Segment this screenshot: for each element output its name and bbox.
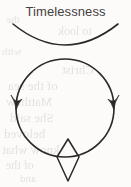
timelessness-diagram-page: theto lookwithChristof the seaMatthewShe… <box>0 0 131 187</box>
diamond-shape <box>57 139 79 181</box>
timelessness-symbol-drawing <box>0 0 131 187</box>
circle-shape <box>16 59 114 157</box>
page-title: Timelessness <box>0 4 131 19</box>
top-arc-shape <box>13 24 118 45</box>
